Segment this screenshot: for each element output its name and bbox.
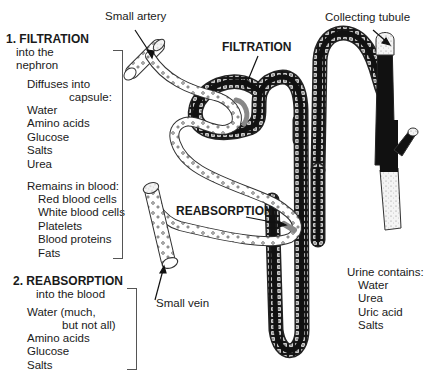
list-item: Fats (38, 247, 125, 260)
filtration-callout-label: FILTRATION (222, 41, 292, 54)
reabsorption-list: Amino acids Glucose Salts (27, 332, 90, 372)
filtration-heading: 1. FILTRATION (6, 33, 89, 46)
collecting-tubule-label: Collecting tubule (325, 11, 410, 24)
list-item: Salts (358, 319, 403, 332)
reabsorption-subheading: into the blood (36, 288, 105, 301)
urine-heading: Urine contains: (347, 266, 424, 279)
diffuses-label-2: capsule: (69, 91, 112, 104)
remains-list: Red blood cells White blood cells Platel… (38, 193, 125, 260)
list-item: Salts (27, 144, 90, 157)
filtration-bracket (113, 50, 123, 259)
reabsorption-callout-label: REABSORPTION (176, 205, 273, 218)
collecting-tubule (375, 33, 418, 231)
reabsorption-bracket (127, 288, 137, 370)
list-item: Red blood cells (38, 193, 125, 206)
reabsorption-water-2: but not all) (62, 319, 116, 332)
list-item: Platelets (38, 220, 125, 233)
diffuses-list: Water Amino acids Glucose Salts Urea (27, 104, 90, 171)
list-item: Blood proteins (38, 233, 125, 246)
list-item: Water (358, 279, 403, 292)
list-item: Amino acids (27, 332, 90, 345)
list-item: Salts (27, 359, 90, 372)
remains-label: Remains in blood: (27, 180, 119, 193)
small-artery-label: Small artery (105, 10, 166, 23)
reabsorption-heading: 2. REABSORPTION (13, 275, 123, 288)
list-item: Uric acid (358, 306, 403, 319)
urine-list: Water Urea Uric acid Salts (358, 279, 403, 333)
list-item: Water (27, 104, 90, 117)
small-vein-label: Small vein (156, 297, 209, 310)
list-item: White blood cells (38, 206, 125, 219)
filtration-subheading-2: nephron (16, 59, 58, 72)
reabsorption-water-1: Water (much, (27, 306, 96, 319)
list-item: Urea (358, 292, 403, 305)
list-item: Glucose (27, 345, 90, 358)
list-item: Glucose (27, 131, 90, 144)
list-item: Amino acids (27, 117, 90, 130)
list-item: Urea (27, 158, 90, 171)
filtration-subheading-1: into the (16, 46, 54, 59)
diffuses-label-1: Diffuses into (27, 78, 90, 91)
nephron-tubule (195, 33, 385, 351)
